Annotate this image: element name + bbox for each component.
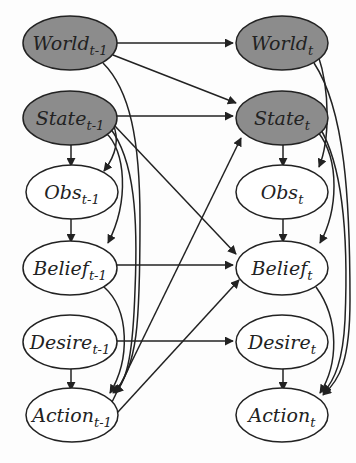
edge-action-prev-to-state-t <box>112 138 241 402</box>
node-obs-t: Obst <box>236 165 328 219</box>
node-belief-prev: Belieft-1 <box>23 241 117 295</box>
node-action-prev: Actiont-1 <box>26 388 118 442</box>
edge-world-prev-to-state-t <box>113 55 236 103</box>
node-belief-t: Belieft <box>236 241 328 295</box>
node-world-t: Worldt <box>236 16 328 70</box>
dbn-diagram: Worldt-1 Statet-1 Obst-1 Belieft-1 Desir… <box>0 0 356 463</box>
node-state-prev: Statet-1 <box>23 91 117 145</box>
node-state-t: Statet <box>236 91 328 145</box>
node-world-prev: Worldt-1 <box>23 16 117 70</box>
diagram-canvas: Worldt-1 Statet-1 Obst-1 Belieft-1 Desir… <box>0 0 356 463</box>
node-desire-prev: Desiret-1 <box>23 315 117 369</box>
node-action-t: Actiont <box>236 388 328 442</box>
node-obs-prev: Obst-1 <box>26 165 118 219</box>
node-desire-t: Desiret <box>236 315 328 369</box>
